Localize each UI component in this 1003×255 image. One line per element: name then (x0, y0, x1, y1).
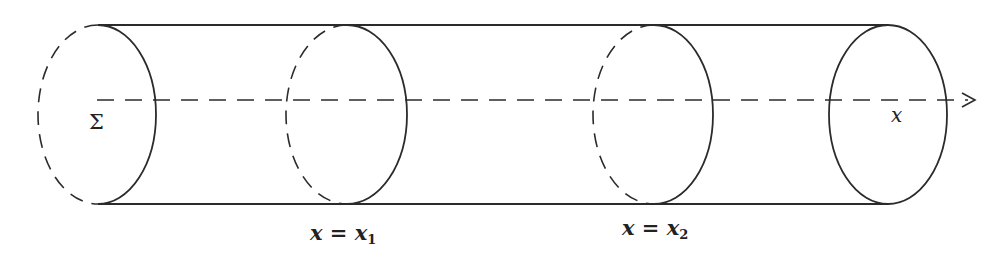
x2-label-var: x (622, 215, 635, 240)
x1-section-back-half (286, 25, 347, 204)
x2-label-sub: 2 (679, 227, 688, 242)
sigma-section-front-half (98, 25, 156, 204)
x1-label-var: x (310, 220, 323, 245)
end-cap-ellipse (829, 25, 947, 204)
x2-position-label: x = x2 (622, 215, 688, 242)
sigma-label: Σ (89, 110, 104, 134)
x1-label-rhs: x (355, 220, 368, 245)
x2-label-eq: = (642, 215, 660, 240)
x2-section-front-half (654, 25, 713, 204)
cylinder-diagram (0, 0, 1003, 255)
x1-label-sub: 1 (367, 232, 376, 247)
x2-section-back-half (593, 25, 654, 204)
x1-section-front-half (347, 25, 407, 204)
x-axis-arrowhead (962, 93, 975, 107)
x1-position-label: x = x1 (310, 220, 376, 247)
x2-label-rhs: x (667, 215, 680, 240)
axis-label: x (891, 103, 902, 127)
x1-label-eq: = (330, 220, 348, 245)
